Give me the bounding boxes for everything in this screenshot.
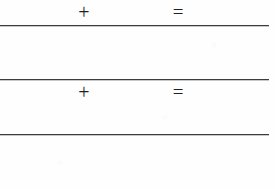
row-1-equals-sign: =: [156, 2, 200, 21]
table-row: + =: [0, 0, 275, 26]
row-1-plus-sign: +: [62, 2, 106, 22]
table-row: − =: [0, 80, 275, 135]
worksheet-sheet: + = + = − = − =: [0, 0, 275, 189]
table-row: − =: [0, 135, 275, 189]
table-row: + =: [0, 26, 275, 80]
